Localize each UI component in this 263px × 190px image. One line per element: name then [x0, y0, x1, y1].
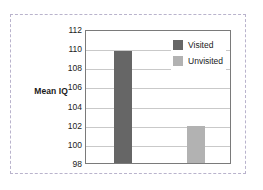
legend-swatch-icon — [173, 56, 183, 66]
y-axis-tick-label: 110 — [58, 45, 82, 54]
legend-item-visited: Visited — [173, 37, 223, 53]
y-axis-tick-label: 106 — [58, 83, 82, 92]
gridline — [86, 108, 230, 109]
y-axis-tick-label: 108 — [58, 64, 82, 73]
bar-visited — [114, 51, 132, 163]
legend-label: Visited — [188, 40, 213, 50]
legend-label: Unvisited — [188, 56, 223, 66]
y-axis-tick-label: 112 — [58, 26, 82, 35]
legend-item-unvisited: Unvisited — [173, 53, 223, 69]
chart-figure: Mean IQ 98100102104106108110112 VisitedU… — [0, 0, 263, 190]
gridline — [86, 146, 230, 147]
plot-area: VisitedUnvisited — [85, 30, 231, 164]
chart-legend: VisitedUnvisited — [171, 35, 226, 71]
gridline — [86, 127, 230, 128]
y-axis-tick-label: 104 — [58, 102, 82, 111]
bar-unvisited — [187, 126, 205, 163]
y-axis-tick-label: 100 — [58, 140, 82, 149]
y-axis-tick-labels: 98100102104106108110112 — [58, 30, 82, 164]
legend-swatch-icon — [173, 40, 183, 50]
y-axis-tick-label: 102 — [58, 121, 82, 130]
gridline — [86, 88, 230, 89]
y-axis-tick-label: 98 — [58, 160, 82, 169]
